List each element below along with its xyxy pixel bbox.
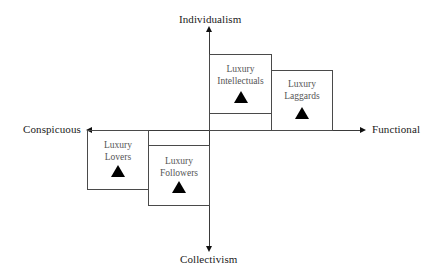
- triangle-icon: [234, 91, 248, 103]
- segment-label-line1: Luxury: [271, 78, 333, 90]
- arrow-down-icon: [206, 246, 212, 252]
- axis-label-bottom: Collectivism: [180, 253, 237, 265]
- segment-label-followers: Luxury Followers: [148, 155, 210, 179]
- triangle-icon: [111, 165, 125, 177]
- segment-label-line1: Luxury: [148, 155, 210, 167]
- segment-label-line1: Luxury: [87, 139, 149, 151]
- segment-label-line2: Intellectuals: [209, 75, 272, 87]
- arrow-right-icon: [360, 127, 366, 133]
- followers-connector: [148, 130, 149, 146]
- triangle-icon: [172, 181, 186, 193]
- axis-label-left: Conspicuous: [23, 123, 81, 135]
- segment-label-laggards: Luxury Laggards: [271, 78, 333, 102]
- axis-label-right: Functional: [372, 123, 420, 135]
- segment-label-intellectuals: Luxury Intellectuals: [209, 63, 272, 87]
- arrow-up-icon: [206, 26, 212, 32]
- intellectuals-divider: [209, 113, 271, 114]
- segment-label-lovers: Luxury Lovers: [87, 139, 149, 163]
- segment-label-line2: Followers: [148, 167, 210, 179]
- axis-label-top: Individualism: [179, 13, 241, 25]
- triangle-icon: [295, 107, 309, 119]
- segment-label-line2: Lovers: [87, 151, 149, 163]
- segment-label-line1: Luxury: [209, 63, 272, 75]
- segment-label-line2: Laggards: [271, 90, 333, 102]
